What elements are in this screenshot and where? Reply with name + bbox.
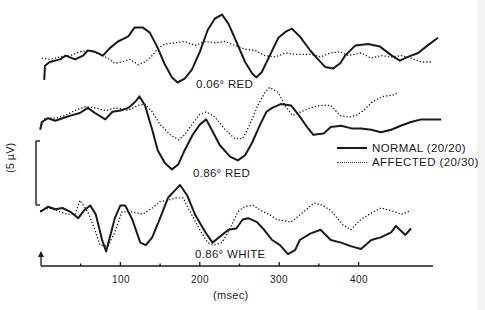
x-tick-label-400: 400 xyxy=(350,274,368,285)
panel-label-006-red: 0.06° RED xyxy=(196,78,253,90)
waveform-traces xyxy=(40,15,441,255)
panel-label-086-white: 0.86° WHITE xyxy=(195,248,266,260)
scale-bar-label: (5 µV) xyxy=(4,143,16,173)
stimulus-onset-arrow-icon xyxy=(38,251,44,257)
x-tick-label-200: 200 xyxy=(191,274,209,285)
x-tick-label-100: 100 xyxy=(112,274,130,285)
amplitude-scale-bar xyxy=(36,141,40,205)
x-axis-title: (msec) xyxy=(213,289,248,301)
x-tick-label-300: 300 xyxy=(270,274,288,285)
legend-label-affected: AFFECTED (20/30) xyxy=(372,156,479,168)
panel-label-086-red: 0.86° RED xyxy=(193,167,250,179)
affected-trace-panel-3 xyxy=(40,198,411,247)
legend-item-normal: NORMAL (20/20) xyxy=(337,141,479,155)
legend-label-normal: NORMAL (20/20) xyxy=(372,142,466,154)
affected-trace-panel-2 xyxy=(40,87,398,139)
dotted-line-swatch-icon xyxy=(337,162,367,163)
normal-trace-panel-3 xyxy=(40,185,411,254)
normal-trace-panel-1 xyxy=(44,15,438,83)
legend-item-affected: AFFECTED (20/30) xyxy=(337,155,479,169)
legend: NORMAL (20/20) AFFECTED (20/30) xyxy=(337,141,479,169)
solid-line-swatch-icon xyxy=(337,147,367,149)
